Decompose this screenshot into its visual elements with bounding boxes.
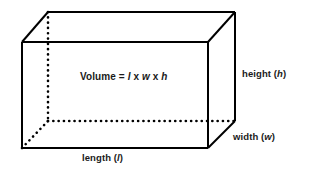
front-face-edges [22,42,208,148]
width-dimension-label: width (w) [233,131,275,142]
height-label-close: ) [283,68,286,79]
length-label-close: ) [120,152,123,163]
width-label-close: ) [272,131,275,142]
formula-width-variable: w [142,71,150,82]
bottom-right-diagonal-edge [208,121,235,148]
rectangular-prism-shape [0,0,309,175]
top-left-diagonal-edge [22,12,48,42]
formula-lead-text: Volume = [80,71,128,82]
height-label-text: height ( [242,68,277,79]
formula-times-2: x [150,71,161,82]
width-label-variable: w [264,131,272,142]
formula-times-1: x [131,71,142,82]
diagram-canvas: Volume = l x w x h height (h) width (w) … [0,0,309,175]
length-dimension-label: length (l) [82,152,123,163]
volume-formula-label: Volume = l x w x h [80,71,168,82]
top-right-diagonal-edge [208,12,235,42]
hidden-bottom-left-diagonal-edge [22,121,48,148]
right-face-edges [208,12,235,148]
length-label-text: length ( [82,152,117,163]
height-dimension-label: height (h) [242,68,286,79]
formula-height-variable: h [161,71,167,82]
width-label-text: width ( [233,131,264,142]
top-face-edges [22,12,235,42]
